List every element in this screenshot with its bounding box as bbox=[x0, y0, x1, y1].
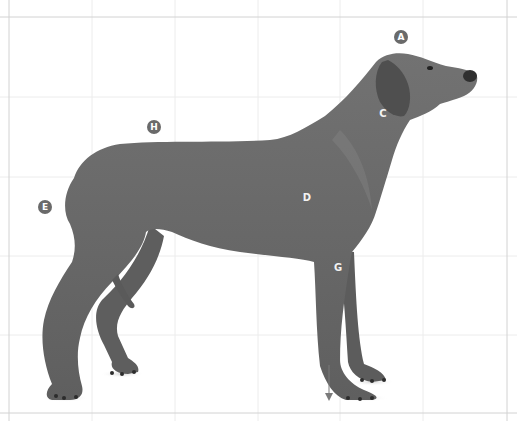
dog-diagram: A C D E G H bbox=[0, 0, 517, 421]
marker-e: E bbox=[38, 200, 52, 214]
eye bbox=[427, 66, 433, 70]
marker-h: H bbox=[147, 120, 161, 134]
marker-g: G bbox=[331, 261, 345, 275]
marker-d: D bbox=[300, 191, 314, 205]
nose bbox=[463, 70, 477, 82]
dog-illustration bbox=[0, 0, 517, 421]
marker-a: A bbox=[394, 30, 408, 44]
marker-c: C bbox=[376, 107, 390, 121]
